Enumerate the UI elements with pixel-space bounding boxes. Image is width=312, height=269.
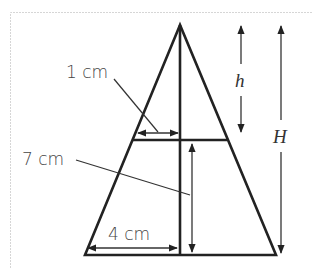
similar-triangles-diagram: 1 cm 7 cm 4 cm h H bbox=[0, 0, 312, 269]
small-height-label: h bbox=[235, 70, 245, 91]
top-width-leader bbox=[114, 79, 158, 132]
total-height-label: H bbox=[272, 126, 288, 147]
lower-height-label: 7 cm bbox=[22, 149, 64, 169]
top-width-label: 1 cm bbox=[66, 62, 108, 82]
lower-height-leader bbox=[76, 160, 190, 195]
base-width-label: 4 cm bbox=[108, 224, 150, 244]
